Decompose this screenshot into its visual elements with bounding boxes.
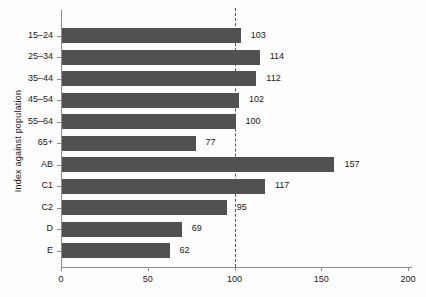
category-tick-mark bbox=[57, 36, 61, 37]
bar bbox=[62, 157, 334, 172]
category-tick-mark bbox=[57, 79, 61, 80]
bar bbox=[62, 200, 227, 215]
bar bbox=[62, 179, 265, 194]
category-tick-mark bbox=[57, 143, 61, 144]
value-label: 157 bbox=[344, 159, 359, 169]
x-axis-tick-mark bbox=[61, 267, 62, 271]
category-label: 35–44 bbox=[0, 73, 53, 83]
bar bbox=[62, 222, 182, 237]
value-label: 103 bbox=[251, 30, 266, 40]
bar bbox=[62, 114, 236, 129]
x-axis-line bbox=[61, 267, 412, 268]
value-label: 114 bbox=[270, 51, 284, 61]
x-axis-tick-label: 150 bbox=[306, 274, 336, 284]
x-axis-tick-mark bbox=[321, 267, 322, 271]
value-label: 69 bbox=[192, 223, 202, 233]
category-tick-mark bbox=[57, 100, 61, 101]
category-tick-mark bbox=[57, 122, 61, 123]
category-tick-mark bbox=[57, 165, 61, 166]
value-label: 62 bbox=[180, 245, 190, 255]
category-tick-mark bbox=[57, 229, 61, 230]
value-label: 100 bbox=[246, 116, 261, 126]
bar bbox=[62, 71, 256, 86]
category-label: C2 bbox=[0, 202, 53, 212]
category-label: D bbox=[0, 223, 53, 233]
category-label: 55–64 bbox=[0, 116, 53, 126]
x-axis-tick-label: 100 bbox=[220, 274, 250, 284]
value-label: 112 bbox=[266, 73, 280, 83]
value-label: 95 bbox=[237, 202, 247, 212]
bar bbox=[62, 93, 239, 108]
reference-line bbox=[235, 8, 236, 267]
bar-chart-figure: Index against population 15–2410325–3411… bbox=[0, 0, 426, 297]
category-label: 45–54 bbox=[0, 94, 53, 104]
bar bbox=[62, 50, 260, 65]
bar bbox=[62, 136, 196, 151]
x-axis-tick-label: 50 bbox=[133, 274, 163, 284]
category-label: AB bbox=[0, 159, 53, 169]
x-axis-tick-mark bbox=[235, 267, 236, 271]
value-label: 102 bbox=[249, 94, 264, 104]
value-label: 77 bbox=[206, 137, 216, 147]
bar bbox=[62, 243, 170, 258]
x-axis-tick-label: 200 bbox=[393, 274, 423, 284]
category-tick-mark bbox=[57, 208, 61, 209]
category-label: 25–34 bbox=[0, 51, 53, 61]
category-label: C1 bbox=[0, 180, 53, 190]
category-tick-mark bbox=[57, 251, 61, 252]
value-label: 117 bbox=[275, 180, 289, 190]
category-tick-mark bbox=[57, 57, 61, 58]
x-axis-tick-label: 0 bbox=[46, 274, 76, 284]
x-axis-tick-mark bbox=[148, 267, 149, 271]
category-label: 15–24 bbox=[0, 30, 53, 40]
category-tick-mark bbox=[57, 186, 61, 187]
x-axis-tick-mark bbox=[408, 267, 409, 271]
category-label: 65+ bbox=[0, 137, 53, 147]
bar bbox=[62, 28, 241, 43]
category-label: E bbox=[0, 245, 53, 255]
